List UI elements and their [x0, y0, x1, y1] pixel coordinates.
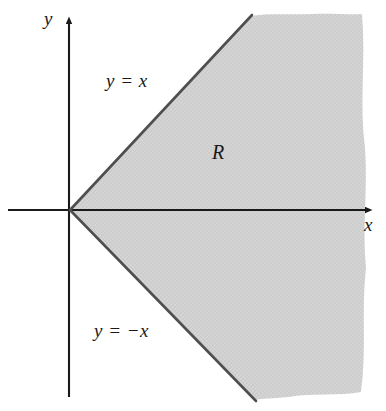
x-axis-label: x: [364, 214, 372, 236]
figure-canvas: [0, 0, 386, 411]
label-line-y-equals-x: y = x: [106, 70, 148, 92]
region-label-R: R: [212, 141, 224, 164]
label-line-y-equals-negative-x: y = −x: [94, 320, 149, 342]
coordinate-plane-figure: y x y = x y = −x R: [0, 0, 386, 411]
y-axis-label: y: [44, 8, 52, 30]
